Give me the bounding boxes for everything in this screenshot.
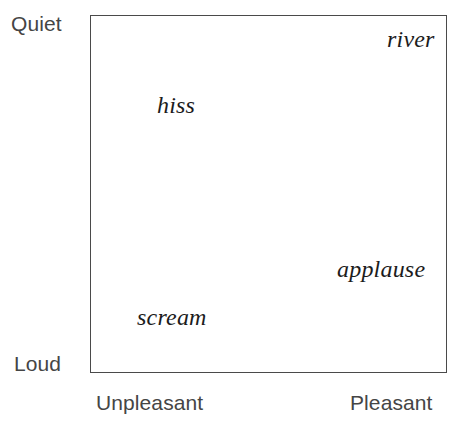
figure-canvas: Quiet Loud Unpleasant Pleasant river his… xyxy=(0,0,458,429)
data-point-label-hiss: hiss xyxy=(157,92,195,119)
y-axis-bottom-label: Loud xyxy=(14,352,61,376)
data-point-label-river: river xyxy=(387,26,435,53)
y-axis-top-label: Quiet xyxy=(11,12,62,36)
data-point-label-scream: scream xyxy=(137,304,207,331)
data-point-label-applause: applause xyxy=(337,256,425,283)
x-axis-left-label: Unpleasant xyxy=(96,391,203,415)
x-axis-right-label: Pleasant xyxy=(350,391,433,415)
